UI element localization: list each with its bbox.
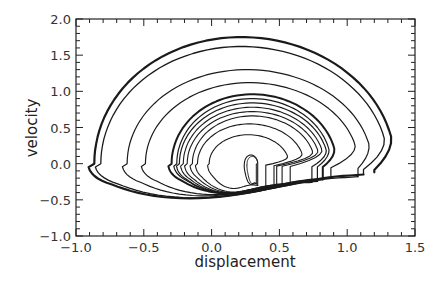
y-tick-label: −0.5	[39, 193, 71, 208]
y-tick-label: 0.5	[50, 121, 71, 136]
y-tick-label: 2.0	[50, 12, 71, 27]
x-tick-label: −0.5	[128, 240, 160, 255]
axis-ticks	[76, 19, 415, 236]
y-tick-label: 1.5	[50, 48, 71, 63]
y-tick-label: 0.0	[50, 157, 71, 172]
x-axis-title: displacement	[194, 253, 295, 271]
phase-plot: −1.0−0.50.00.51.01.5 −1.0−0.50.00.51.01.…	[0, 0, 436, 283]
x-tick-label: 1.5	[405, 240, 426, 255]
trajectory-curves	[89, 37, 392, 198]
trajectory-loop	[247, 156, 258, 184]
x-tick-label: 1.0	[337, 240, 358, 255]
y-tick-label: −1.0	[39, 229, 71, 244]
y-tick-label: 1.0	[50, 84, 71, 99]
trajectory-loop	[89, 37, 392, 198]
plot-frame	[76, 19, 415, 236]
y-tick-labels: −1.0−0.50.00.51.01.52.0	[39, 12, 71, 244]
trajectory-loop	[244, 155, 258, 185]
y-axis-title: velocity	[23, 99, 41, 158]
